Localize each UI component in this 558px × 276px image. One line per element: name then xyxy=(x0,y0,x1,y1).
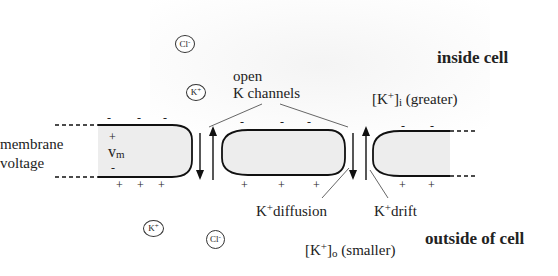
voltage-label: voltage xyxy=(0,155,44,172)
ion-cl-inside: Cl- xyxy=(175,35,195,53)
leader-open-channel-2 xyxy=(280,104,348,127)
charge-inside-7: - xyxy=(401,120,405,132)
arrow-down-icon xyxy=(196,170,204,180)
vm-minus: - xyxy=(111,162,115,174)
membrane-segment-middle xyxy=(222,130,345,175)
charge-outside-4: + xyxy=(241,179,248,191)
charge-inside-6: - xyxy=(307,116,311,128)
charge-outside-7: + xyxy=(399,179,406,191)
charge-outside-1: + xyxy=(116,179,123,191)
charge-inside-8: - xyxy=(430,120,434,132)
charge-inside-1: - xyxy=(107,112,111,124)
charge-outside-8: + xyxy=(428,179,435,191)
charge-inside-4: - xyxy=(240,116,244,128)
outside-cell-label: outside of cell xyxy=(425,230,524,247)
arrow-up-icon xyxy=(362,126,370,136)
arrow-up-icon xyxy=(209,126,217,136)
charge-inside-3: - xyxy=(163,112,167,124)
inside-cell-label: inside cell xyxy=(437,49,508,66)
vm-plus: + xyxy=(109,131,116,143)
k-diffusion-label: K+diffusion xyxy=(256,203,327,220)
ion-k-outside: K+ xyxy=(143,220,164,237)
charge-inside-2: - xyxy=(137,112,141,124)
charge-outside-2: + xyxy=(137,179,144,191)
membrane-segment-right-fill xyxy=(373,131,450,176)
open-label: open xyxy=(233,68,262,85)
charge-outside-3: + xyxy=(158,179,165,191)
vm-label: vm xyxy=(108,143,125,160)
k-inside-concentration: [K+]i (greater) xyxy=(372,91,457,108)
membrane-diagram: Cl- K+ K+ Cl- inside cell outside of cel… xyxy=(0,0,558,276)
leader-open-channel-1 xyxy=(209,104,262,127)
ion-cl-outside: Cl- xyxy=(206,230,225,249)
charge-outside-5: + xyxy=(278,179,285,191)
k-channels-label: K channels xyxy=(233,85,300,102)
k-outside-concentration: [K+]o (smaller) xyxy=(305,242,395,259)
charge-inside-5: - xyxy=(280,116,284,128)
membrane-label: membrane xyxy=(0,136,63,153)
ion-k-inside: K+ xyxy=(186,84,206,101)
arrow-down-icon xyxy=(349,170,357,180)
charge-outside-6: + xyxy=(313,179,320,191)
k-drift-label: K+drift xyxy=(374,203,417,220)
